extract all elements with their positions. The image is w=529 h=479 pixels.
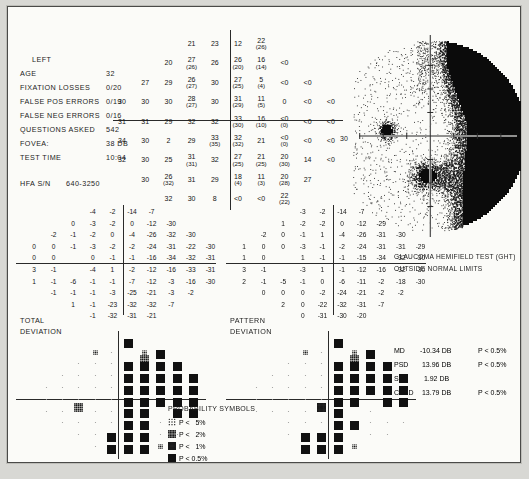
screenshot-page: LEFT AGE32FIXATION LOSSES0/20FALSE POS E…: [0, 0, 529, 479]
threshold-value: 32: [211, 157, 219, 164]
threshold-value: 30: [118, 99, 126, 106]
probability-cell: [303, 341, 308, 346]
deviation-value: 2: [281, 300, 285, 307]
deviation-value: -30: [186, 231, 196, 238]
index-probability: P < 0.5%: [478, 347, 506, 354]
probability-cell: [270, 376, 275, 381]
deviation-value: -24: [357, 242, 367, 249]
probability-cell: [124, 339, 133, 348]
deviation-value: -16: [166, 266, 176, 273]
deviation-value: 0: [91, 254, 95, 261]
deviation-value: -14: [127, 208, 137, 215]
threshold-value: 31: [188, 176, 196, 183]
probability-cell: [366, 386, 375, 395]
probability-cell: [140, 398, 149, 407]
index-value: 1.92 DB: [420, 375, 449, 382]
header-field-label: FALSE NEG ERRORS: [20, 111, 100, 120]
probability-cell: [368, 423, 373, 428]
threshold-value: 32: [164, 196, 172, 203]
probability-cell: [334, 374, 343, 383]
deviation-value: -26: [357, 231, 367, 238]
deviation-value: 1: [111, 266, 115, 273]
deviation-value: -31: [396, 242, 406, 249]
deviation-value: -14: [337, 208, 347, 215]
probability-cell: [383, 386, 392, 395]
total-deviation-label-line2: DEVIATION: [20, 327, 62, 336]
deviation-value: 0: [301, 300, 305, 307]
probability-cell: [124, 445, 133, 454]
probability-cell: [189, 386, 198, 395]
deviation-value: -31: [206, 266, 216, 273]
threshold-value: 18(4): [234, 173, 242, 187]
deviation-value: -1: [90, 300, 96, 307]
probability-cell: [334, 398, 343, 407]
deviation-value: -32: [337, 300, 347, 307]
deviation-value: -4: [129, 231, 135, 238]
threshold-value: 33(30): [232, 115, 243, 129]
threshold-value: 20(30): [279, 154, 290, 168]
probability-cell: [76, 411, 81, 416]
probability-cell: [158, 423, 163, 428]
probability-cell: [319, 423, 324, 428]
deviation-value: -22: [186, 242, 196, 249]
deviation-value: -20: [357, 312, 367, 319]
threshold-value: 30: [141, 157, 149, 164]
threshold-value: 22(22): [279, 192, 290, 206]
deviation-value: -32: [127, 300, 137, 307]
header-field-label: FOVEA:: [20, 139, 49, 148]
probability-cell: [366, 374, 375, 383]
deviation-value: 0: [111, 231, 115, 238]
deviation-value: -2: [319, 219, 325, 226]
probability-cell: [286, 400, 291, 405]
deviation-value: -31: [206, 254, 216, 261]
deviation-value: -2: [398, 289, 404, 296]
threshold-value: 32: [211, 118, 219, 125]
threshold-value: 31(29): [232, 95, 243, 109]
probability-cell: [140, 409, 149, 418]
probability-cell: [109, 376, 114, 381]
probability-cell: [124, 362, 133, 371]
probability-cell: [140, 433, 149, 442]
threshold-value: 11(5): [257, 95, 265, 109]
deviation-value: -3: [168, 277, 174, 284]
deviation-value: -1: [129, 254, 135, 261]
threshold-value: 29: [164, 118, 172, 125]
threshold-value: 11(3): [257, 173, 265, 187]
deviation-value: 1: [71, 300, 75, 307]
deviation-value: 1: [321, 266, 325, 273]
pd-vertical-axis: [333, 205, 334, 315]
threshold-value: 12: [234, 40, 242, 47]
pattern-deviation-numeric-grid: -3-2-14-71-2-20-12-29-20-11-4-26-31-3010…: [236, 205, 426, 315]
probability-cell: [93, 435, 98, 440]
probability-cell: [368, 400, 373, 405]
deviation-value: 0: [262, 289, 266, 296]
deviation-value: -1: [90, 289, 96, 296]
threshold-value: <0: [327, 118, 335, 125]
probability-cell: [93, 411, 98, 416]
probability-cell: [334, 386, 343, 395]
deviation-value: -2: [109, 242, 115, 249]
deviation-value: 1: [32, 277, 36, 284]
deviation-value: -1: [300, 231, 306, 238]
deviation-value: -30: [206, 277, 216, 284]
probability-cell: [319, 411, 324, 416]
threshold-value: 29: [211, 176, 219, 183]
probability-cell: [60, 376, 65, 381]
probability-cell: [124, 421, 133, 430]
threshold-value: 25: [164, 157, 172, 164]
threshold-value: 27(26): [186, 57, 197, 71]
total-deviation-label-line1: TOTAL: [20, 316, 45, 325]
threshold-value: 26(20): [232, 57, 243, 71]
probability-symbol-swatch: [168, 418, 176, 426]
deviation-value: -12: [357, 266, 367, 273]
header-field-label: TEST TIME: [20, 153, 61, 162]
probability-cell: [140, 350, 149, 359]
deviation-value: -2: [90, 231, 96, 238]
deviation-value: 1: [242, 242, 246, 249]
index-probability: P < 0.5%: [478, 361, 506, 368]
threshold-value: <0: [280, 60, 288, 67]
deviation-value: -1: [319, 242, 325, 249]
threshold-value: <0: [304, 137, 312, 144]
serial-label: HFA S/N: [20, 179, 51, 188]
probability-legend-text: P < 2%: [179, 431, 206, 438]
